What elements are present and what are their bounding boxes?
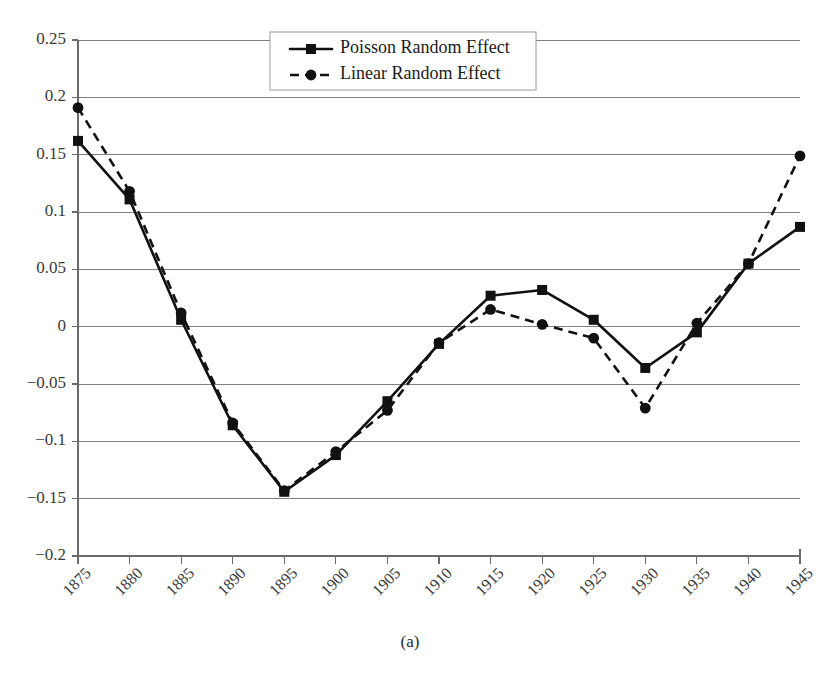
x-axis-tick-label: 1895 [266, 564, 301, 599]
y-axis-tick-label: 0.2 [45, 86, 66, 105]
y-axis-tick-label: 0.05 [36, 258, 66, 277]
data-point-marker-circle [537, 319, 548, 330]
x-axis-tick-label: 1930 [627, 564, 662, 599]
data-point-marker-circle [73, 102, 84, 113]
gridlines-group [78, 40, 800, 556]
x-axis-tick-labels: 1875188018851890189519001905191019151920… [59, 564, 816, 599]
data-point-marker-circle [279, 485, 290, 496]
data-point-marker-circle [485, 304, 496, 315]
y-axis-tick-label: −0.15 [27, 488, 66, 507]
data-point-marker-circle [227, 418, 238, 429]
series-line-1 [78, 141, 800, 492]
data-point-marker-circle [743, 258, 754, 269]
data-point-marker-square [382, 396, 392, 406]
y-axis-tick-label: 0.15 [36, 144, 66, 163]
data-point-marker-square [486, 291, 496, 301]
y-axis-tick-label: 0 [58, 316, 67, 335]
data-point-marker-square [692, 327, 702, 337]
data-point-marker-square [73, 136, 83, 146]
x-axis-tick-label: 1900 [317, 564, 352, 599]
y-axis-tick-label: −0.05 [27, 373, 66, 392]
x-axis-tick-label: 1910 [420, 564, 455, 599]
data-series-group [78, 108, 800, 492]
data-point-marker-circle [434, 337, 445, 348]
data-point-marker-square [640, 363, 650, 373]
legend-label-1: Poisson Random Effect [340, 37, 510, 57]
data-point-marker-circle [588, 333, 599, 344]
data-point-marker-circle [691, 318, 702, 329]
data-point-marker-circle [382, 405, 393, 416]
line-chart: 0.250.20.150.10.050−0.05−0.1−0.15−0.2 18… [0, 0, 821, 674]
data-point-marker-square [795, 222, 805, 232]
x-axis-tick-label: 1945 [781, 564, 816, 599]
x-axis-tick-label: 1920 [524, 564, 559, 599]
legend-marker-circle [306, 70, 317, 81]
x-axis-tick-label: 1875 [59, 564, 94, 599]
y-axis-tick-label: −0.2 [35, 545, 66, 564]
data-point-marker-circle [795, 150, 806, 161]
x-axis-tick-label: 1905 [369, 564, 404, 599]
x-axis-tick-label: 1915 [472, 564, 507, 599]
chart-legend: Poisson Random EffectLinear Random Effec… [270, 32, 536, 90]
y-axis-tick-label: 0.1 [45, 201, 66, 220]
data-point-marker-circle [640, 403, 651, 414]
data-markers-group [73, 102, 806, 497]
x-axis-tick-label: 1925 [575, 564, 610, 599]
x-axis-tick-label: 1890 [214, 564, 249, 599]
axes-group [72, 40, 800, 556]
data-point-marker-circle [124, 186, 135, 197]
x-tick-marks-group [78, 556, 800, 564]
y-axis-tick-label: 0.25 [36, 29, 66, 48]
legend-marker-square [306, 44, 316, 54]
data-point-marker-circle [176, 308, 187, 319]
legend-label-2: Linear Random Effect [340, 63, 501, 83]
y-axis-tick-labels: 0.250.20.150.10.050−0.05−0.1−0.15−0.2 [27, 29, 66, 564]
y-axis-tick-label: −0.1 [35, 430, 66, 449]
x-axis-tick-label: 1935 [678, 564, 713, 599]
data-point-marker-square [537, 285, 547, 295]
figure-caption: (a) [401, 632, 420, 651]
data-point-marker-square [589, 315, 599, 325]
series-line-2 [78, 108, 800, 491]
x-axis-tick-label: 1880 [111, 564, 146, 599]
data-point-marker-circle [330, 446, 341, 457]
x-axis-tick-label: 1940 [730, 564, 765, 599]
figure-container: 0.250.20.150.10.050−0.05−0.1−0.15−0.2 18… [0, 0, 821, 674]
x-axis-tick-label: 1885 [163, 564, 198, 599]
